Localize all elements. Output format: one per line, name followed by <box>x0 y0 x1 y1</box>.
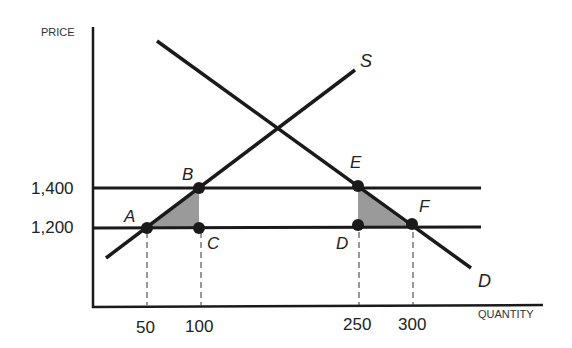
demand-curve <box>157 41 471 268</box>
y-tick-1200: 1,200 <box>31 218 74 237</box>
point-label-c: C <box>207 234 220 253</box>
x-tick-100: 100 <box>185 317 213 336</box>
supply-demand-diagram: PRICE QUANTITY 1,400 1,200 50 100 250 30… <box>0 0 572 348</box>
y-tick-1400: 1,400 <box>31 179 74 198</box>
point-label-e: E <box>350 153 362 172</box>
y-axis-label: PRICE <box>41 26 75 38</box>
point-a <box>141 222 153 234</box>
point-f <box>406 218 418 230</box>
demand-label: D <box>478 271 491 291</box>
x-tick-50: 50 <box>136 318 155 337</box>
point-b <box>193 182 205 194</box>
x-axis-label: QUANTITY <box>478 308 534 320</box>
point-label-b: B <box>182 165 193 184</box>
x-tick-300: 300 <box>398 315 426 334</box>
supply-label: S <box>360 51 372 71</box>
point-e <box>352 180 364 192</box>
dashed-guides <box>147 232 413 305</box>
point-label-d: D <box>336 234 348 253</box>
point-c <box>193 222 205 234</box>
point-d <box>352 219 364 231</box>
point-label-f: F <box>419 197 431 216</box>
x-tick-250: 250 <box>343 315 371 334</box>
x-axis <box>92 305 543 307</box>
point-label-a: A <box>123 207 135 226</box>
